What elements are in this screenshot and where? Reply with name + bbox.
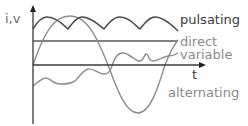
y-axis-arrow-icon — [30, 5, 36, 12]
y-axis-label: i,v — [5, 11, 21, 26]
pulsating-label: pulsating — [180, 12, 240, 27]
variable-label: variable — [180, 47, 232, 62]
waveform-diagram: i,v pulsating direct variable t alternat… — [0, 0, 248, 126]
pulsating-curve — [33, 17, 178, 31]
x-axis-label: t — [192, 67, 197, 82]
x-axis-arrow-icon — [199, 62, 206, 68]
alternating-label: alternating — [168, 85, 239, 100]
